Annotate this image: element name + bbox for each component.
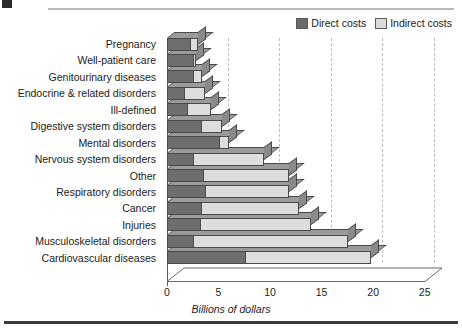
category-label: Respiratory disorders bbox=[0, 184, 162, 200]
legend-label-indirect-costs: Indirect costs bbox=[390, 17, 452, 29]
bar-side-face bbox=[311, 207, 319, 226]
bar-segment-direct bbox=[167, 169, 204, 182]
category-label: Injuries bbox=[0, 217, 162, 233]
x-tick-label: 20 bbox=[367, 286, 379, 298]
x-tick-label: 15 bbox=[316, 286, 328, 298]
stacked-bar bbox=[167, 251, 371, 264]
bar-segment-direct bbox=[167, 235, 194, 248]
stacked-bar bbox=[167, 120, 222, 133]
bar-side-face bbox=[198, 26, 206, 45]
bar-row bbox=[167, 217, 435, 233]
bar-segment-indirect bbox=[246, 251, 371, 264]
bar-segment-direct bbox=[167, 38, 191, 51]
legend-item-direct-costs: Direct costs bbox=[296, 17, 366, 29]
bar-segment-direct bbox=[167, 87, 185, 100]
legend-label-direct-costs: Direct costs bbox=[311, 17, 366, 29]
bar-segment-direct bbox=[167, 185, 206, 198]
legend-swatch-icon bbox=[375, 18, 387, 29]
stacked-bar bbox=[167, 218, 311, 231]
bar-segment-direct bbox=[167, 70, 194, 83]
bar-side-face bbox=[211, 91, 219, 110]
x-tick-label: 5 bbox=[216, 286, 222, 298]
plot-area: PregnancyWell-patient careGenitourinary … bbox=[0, 36, 462, 286]
bar-segment-indirect bbox=[220, 136, 229, 149]
bar-segment-direct bbox=[167, 54, 194, 67]
legend: Direct costs Indirect costs bbox=[296, 17, 452, 29]
bar-row bbox=[167, 102, 435, 118]
x-tick-label: 25 bbox=[419, 286, 431, 298]
bar-segment-indirect bbox=[202, 202, 299, 215]
corner-mark bbox=[2, 0, 12, 8]
category-label: Musculoskeletal disorders bbox=[0, 233, 162, 249]
category-label: Other bbox=[0, 168, 162, 184]
bar-segment-direct bbox=[167, 120, 202, 133]
category-axis-labels: PregnancyWell-patient careGenitourinary … bbox=[0, 36, 162, 266]
x-tick-label: 0 bbox=[164, 286, 170, 298]
bar-segment-direct bbox=[167, 251, 246, 264]
bar-row bbox=[167, 250, 435, 266]
stacked-bar bbox=[167, 103, 211, 116]
category-label: Digestive system disorders bbox=[0, 118, 162, 134]
bar-segment-indirect bbox=[188, 103, 212, 116]
stacked-bar bbox=[167, 185, 289, 198]
x-tick-label: 10 bbox=[264, 286, 276, 298]
bar-segment-direct bbox=[167, 218, 201, 231]
bar-segment-indirect bbox=[206, 185, 288, 198]
category-label: Endocrine & related disorders bbox=[0, 85, 162, 101]
category-label: Genitourinary diseases bbox=[0, 69, 162, 85]
bar-segment-indirect bbox=[194, 70, 202, 83]
stacked-bar bbox=[167, 136, 229, 149]
bar-row bbox=[167, 118, 435, 134]
category-label: Well-patient care bbox=[0, 52, 162, 68]
bar-segment-indirect bbox=[204, 169, 289, 182]
legend-swatch-icon bbox=[296, 18, 308, 29]
category-label: Pregnancy bbox=[0, 36, 162, 52]
stacked-bar bbox=[167, 153, 264, 166]
stacked-bar bbox=[167, 70, 202, 83]
stacked-bar bbox=[167, 235, 348, 248]
bar-segment-direct bbox=[167, 136, 220, 149]
bottom-rule bbox=[4, 321, 458, 324]
stacked-bar bbox=[167, 202, 299, 215]
x-axis-title: Billions of dollars bbox=[0, 303, 462, 315]
legend-item-indirect-costs: Indirect costs bbox=[375, 17, 452, 29]
stacked-bar bbox=[167, 38, 198, 51]
bar-segment-indirect bbox=[194, 54, 196, 67]
category-label: Ill-defined bbox=[0, 102, 162, 118]
bar-segment-indirect bbox=[201, 218, 311, 231]
x-axis-ticks: 0510152025 bbox=[0, 286, 462, 302]
chart-floor bbox=[167, 267, 443, 283]
bars-region bbox=[167, 36, 435, 267]
bar-row bbox=[167, 135, 435, 151]
bar-segment-indirect bbox=[202, 120, 222, 133]
stacked-bar bbox=[167, 54, 196, 67]
bar-segment-indirect bbox=[194, 235, 349, 248]
bar-segment-direct bbox=[167, 202, 202, 215]
stacked-bar bbox=[167, 169, 289, 182]
bar-row bbox=[167, 233, 435, 249]
category-label: Cardiovascular diseases bbox=[0, 250, 162, 266]
top-rule bbox=[48, 8, 454, 10]
bar-segment-indirect bbox=[194, 153, 264, 166]
bar-segment-indirect bbox=[191, 38, 198, 51]
bar-segment-direct bbox=[167, 103, 188, 116]
bar-segment-direct bbox=[167, 153, 194, 166]
category-label: Cancer bbox=[0, 200, 162, 216]
figure-container: Direct costs Indirect costs PregnancyWel… bbox=[0, 0, 462, 333]
category-label: Mental disorders bbox=[0, 135, 162, 151]
stacked-bar bbox=[167, 87, 205, 100]
bar-segment-indirect bbox=[185, 87, 206, 100]
category-label: Nervous system disorders bbox=[0, 151, 162, 167]
